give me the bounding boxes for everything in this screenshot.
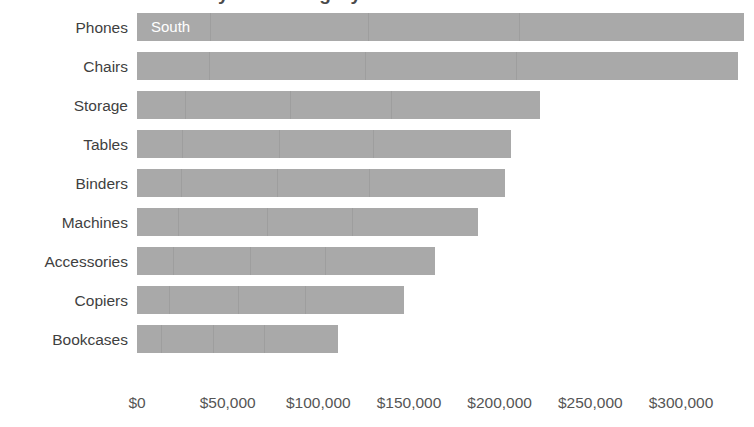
bar-segment-divider: [368, 13, 369, 41]
bar-segment-divider: [213, 325, 214, 353]
category-label: Machines: [0, 203, 128, 242]
bar-segment[interactable]: [137, 169, 505, 197]
x-tick-label: $250,000: [558, 394, 623, 412]
bar-segment-divider: [373, 130, 374, 158]
plot-area: PhonesSouthChairsStorageTablesBindersMac…: [0, 8, 754, 388]
category-label: Phones: [0, 8, 128, 47]
bar-segment[interactable]: [137, 247, 435, 275]
bar-row: Binders: [0, 164, 754, 203]
bar-segment-divider: [210, 13, 211, 41]
bar-track: [137, 208, 478, 236]
bar-segment-divider: [209, 52, 210, 80]
x-tick-label: $100,000: [286, 394, 351, 412]
bar-row: Storage: [0, 86, 754, 125]
x-tick-label: $300,000: [649, 394, 714, 412]
bar-track: [137, 130, 511, 158]
bar-segment[interactable]: [137, 286, 404, 314]
bar-segment-divider: [279, 130, 280, 158]
category-label: Binders: [0, 164, 128, 203]
x-tick-label: $150,000: [377, 394, 442, 412]
bar-track: [137, 91, 540, 119]
bar-row: Machines: [0, 203, 754, 242]
chart-title-cropped: Sales by Sub-Category: [0, 0, 754, 8]
series-label: South: [151, 13, 190, 41]
x-axis: $0$50,000$100,000$150,000$200,000$250,00…: [0, 388, 754, 427]
category-label: Copiers: [0, 281, 128, 320]
bar-segment-divider: [161, 325, 162, 353]
bar-segment[interactable]: [137, 91, 540, 119]
bar-track: South: [137, 13, 744, 41]
bar-segment-divider: [369, 169, 370, 197]
bar-row: Accessories: [0, 242, 754, 281]
bar-segment-divider: [182, 130, 183, 158]
bar-row: PhonesSouth: [0, 8, 754, 47]
bar-track: [137, 286, 404, 314]
bar-track: [137, 52, 738, 80]
chart-title-text: Sales by Sub-Category: [150, 0, 361, 5]
bar-track: [137, 169, 505, 197]
bar-segment[interactable]: [137, 52, 738, 80]
x-tick-label: $50,000: [200, 394, 256, 412]
category-label: Accessories: [0, 242, 128, 281]
bar-segment-divider: [277, 169, 278, 197]
bar-segment[interactable]: [137, 208, 478, 236]
bar-segment-divider: [173, 247, 174, 275]
bar-segment-divider: [391, 91, 392, 119]
x-tick-label: $0: [128, 394, 145, 412]
bar-segment[interactable]: [137, 130, 511, 158]
bar-segment-divider: [290, 91, 291, 119]
bar-row: Bookcases: [0, 320, 754, 359]
bar-track: [137, 247, 435, 275]
category-label: Storage: [0, 86, 128, 125]
bar-segment-divider: [169, 286, 170, 314]
bar-track: [137, 325, 338, 353]
bar-segment-divider: [267, 208, 268, 236]
bar-row: Chairs: [0, 47, 754, 86]
bar-segment-divider: [352, 208, 353, 236]
bar-segment-divider: [250, 247, 251, 275]
bar-segment-divider: [519, 13, 520, 41]
bar-segment-divider: [238, 286, 239, 314]
bar-segment-divider: [178, 208, 179, 236]
bar-chart: Sales by Sub-Category PhonesSouthChairsS…: [0, 0, 754, 427]
bar-row: Tables: [0, 125, 754, 164]
x-tick-label: $200,000: [467, 394, 532, 412]
bar-row: Copiers: [0, 281, 754, 320]
bar-segment[interactable]: [137, 13, 744, 41]
bar-segment-divider: [185, 91, 186, 119]
bar-segment-divider: [181, 169, 182, 197]
bar-segment-divider: [516, 52, 517, 80]
bar-segment-divider: [305, 286, 306, 314]
category-label: Chairs: [0, 47, 128, 86]
bar-segment[interactable]: [137, 325, 338, 353]
bar-segment-divider: [365, 52, 366, 80]
bar-segment-divider: [264, 325, 265, 353]
category-label: Bookcases: [0, 320, 128, 359]
bar-segment-divider: [325, 247, 326, 275]
category-label: Tables: [0, 125, 128, 164]
